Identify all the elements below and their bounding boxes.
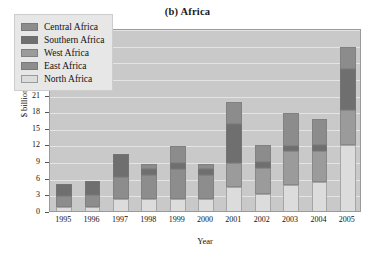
bar-segment[interactable] bbox=[113, 199, 129, 212]
bar-segment[interactable] bbox=[312, 182, 328, 212]
x-axis-tick-label: 2005 bbox=[327, 215, 367, 224]
bar-segment[interactable] bbox=[255, 194, 271, 212]
bar-segment[interactable] bbox=[170, 146, 186, 163]
y-axis-tick-label: 18 bbox=[10, 107, 40, 116]
bar-segment[interactable] bbox=[226, 163, 242, 187]
bar-segment[interactable] bbox=[56, 207, 72, 212]
chart-legend: Central AfricaSouthern AfricaWest Africa… bbox=[14, 14, 113, 91]
legend-swatch-icon bbox=[21, 62, 38, 70]
bar-segment[interactable] bbox=[198, 164, 214, 169]
bar-segment[interactable] bbox=[141, 169, 157, 175]
bar-segment[interactable] bbox=[85, 181, 101, 194]
y-axis-tick-label: 6 bbox=[10, 174, 40, 183]
bar-segment[interactable] bbox=[141, 164, 157, 170]
bar-segment[interactable] bbox=[56, 184, 72, 196]
bar-segment[interactable] bbox=[312, 145, 328, 151]
legend-item-label: Southern Africa bbox=[44, 35, 104, 45]
bar-segment[interactable] bbox=[56, 196, 72, 208]
bar-segment[interactable] bbox=[312, 119, 328, 146]
bar-segment[interactable] bbox=[312, 151, 328, 182]
bar-segment[interactable] bbox=[283, 151, 299, 185]
legend-swatch-icon bbox=[21, 36, 38, 44]
bar-segment[interactable] bbox=[85, 195, 101, 208]
legend-item[interactable]: West Africa bbox=[21, 46, 104, 59]
bar-segment[interactable] bbox=[198, 175, 214, 199]
x-axis-label: Year bbox=[49, 236, 361, 246]
bar-group[interactable] bbox=[340, 30, 356, 211]
legend-item[interactable]: East Africa bbox=[21, 59, 104, 72]
y-axis-tick-label: 3 bbox=[10, 190, 40, 199]
bar-segment[interactable] bbox=[141, 175, 157, 199]
bar-segment[interactable] bbox=[226, 102, 242, 124]
legend-swatch-icon bbox=[21, 23, 38, 31]
bar-segment[interactable] bbox=[340, 47, 356, 69]
bar-segment[interactable] bbox=[226, 124, 242, 163]
bar-segment[interactable] bbox=[113, 177, 129, 199]
bar-segment[interactable] bbox=[226, 187, 242, 212]
y-axis-tick-label: 15 bbox=[10, 124, 40, 133]
bar-group[interactable] bbox=[198, 30, 214, 211]
y-axis-tick-label: 21 bbox=[10, 91, 40, 100]
legend-item[interactable]: Southern Africa bbox=[21, 33, 104, 46]
bar-segment[interactable] bbox=[198, 199, 214, 212]
legend-item[interactable]: Central Africa bbox=[21, 20, 104, 33]
bar-segment[interactable] bbox=[340, 110, 356, 144]
bar-segment[interactable] bbox=[170, 163, 186, 169]
legend-item-label: West Africa bbox=[44, 48, 89, 58]
bar-group[interactable] bbox=[170, 30, 186, 211]
bar-group[interactable] bbox=[141, 30, 157, 211]
bar-segment[interactable] bbox=[170, 199, 186, 212]
bar-group[interactable] bbox=[255, 30, 271, 211]
bar-segment[interactable] bbox=[170, 169, 186, 198]
bar-segment[interactable] bbox=[255, 168, 271, 194]
y-axis-tick-label: 9 bbox=[10, 157, 40, 166]
legend-item[interactable]: North Africa bbox=[21, 72, 104, 85]
chart-container: (b) Africa $ billion 0369121518212427303… bbox=[0, 0, 375, 264]
bar-segment[interactable] bbox=[255, 162, 271, 168]
bar-group[interactable] bbox=[283, 30, 299, 211]
bar-segment[interactable] bbox=[283, 146, 299, 152]
bar-segment[interactable] bbox=[340, 145, 356, 212]
bar-group[interactable] bbox=[312, 30, 328, 211]
legend-item-label: Central Africa bbox=[44, 22, 98, 32]
y-axis-tick-mark bbox=[45, 212, 49, 213]
bar-segment[interactable] bbox=[113, 154, 129, 177]
bar-segment[interactable] bbox=[340, 69, 356, 111]
y-axis-tick-label: 12 bbox=[10, 140, 40, 149]
legend-item-label: North Africa bbox=[44, 74, 92, 84]
bar-segment[interactable] bbox=[283, 113, 299, 146]
legend-item-label: East Africa bbox=[44, 61, 86, 71]
legend-swatch-icon bbox=[21, 49, 38, 57]
bar-segment[interactable] bbox=[255, 145, 271, 162]
bar-segment[interactable] bbox=[141, 199, 157, 212]
bar-segment[interactable] bbox=[198, 169, 214, 175]
legend-swatch-icon bbox=[21, 75, 38, 83]
bar-segment[interactable] bbox=[283, 185, 299, 212]
bar-group[interactable] bbox=[226, 30, 242, 211]
bar-group[interactable] bbox=[113, 30, 129, 211]
bar-segment[interactable] bbox=[85, 207, 101, 212]
y-axis-tick-label: 0 bbox=[10, 207, 40, 216]
